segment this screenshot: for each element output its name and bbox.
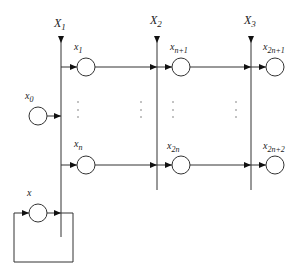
- node-x: [29, 204, 47, 222]
- svg-text:x: x: [26, 187, 32, 198]
- svg-text:X2: X2: [149, 13, 162, 29]
- bus-arrow-down-icon: [248, 36, 254, 43]
- bus-X1: X1: [53, 16, 66, 237]
- arrow-right-icon: [150, 64, 157, 70]
- arrow-right-icon: [70, 64, 77, 70]
- svg-text:xn: xn: [73, 138, 82, 152]
- neural-network-diagram: X1 X2 X3 x1 xn+1 x2n+1: [0, 0, 302, 279]
- arrow-right-icon: [259, 162, 266, 168]
- arrow-right-icon: [54, 210, 61, 216]
- svg-text:x2n: x2n: [166, 140, 179, 154]
- arrow-right-icon: [165, 64, 172, 70]
- input-x0: x0: [24, 90, 61, 125]
- node-x2n: [172, 156, 190, 174]
- arrow-right-icon: [54, 113, 61, 119]
- svg-text:X1: X1: [53, 16, 66, 32]
- arrow-right-icon: [70, 162, 77, 168]
- node-x1: [77, 58, 95, 76]
- arrow-right-icon: [259, 64, 266, 70]
- svg-text:x1: x1: [73, 41, 82, 55]
- node-x2n1: [266, 58, 284, 76]
- node-xn1: [172, 58, 190, 76]
- svg-text:x2n+2: x2n+2: [262, 140, 285, 154]
- bus-arrow-down-icon: [154, 36, 160, 43]
- node-xn: [77, 156, 95, 174]
- arrow-right-icon: [22, 210, 29, 216]
- arrow-right-icon: [150, 162, 157, 168]
- arrow-right-icon: [244, 162, 251, 168]
- arrow-right-icon: [165, 162, 172, 168]
- svg-text:X3: X3: [243, 13, 256, 29]
- svg-text:x2n+1: x2n+1: [262, 41, 285, 55]
- svg-text:xn+1: xn+1: [169, 41, 188, 55]
- arrow-right-icon: [244, 64, 251, 70]
- svg-text:x0: x0: [24, 90, 33, 104]
- node-x0: [29, 107, 47, 125]
- bus-arrow-down-icon: [58, 36, 64, 43]
- node-x2n2: [266, 156, 284, 174]
- feedback-loop: x: [14, 187, 73, 262]
